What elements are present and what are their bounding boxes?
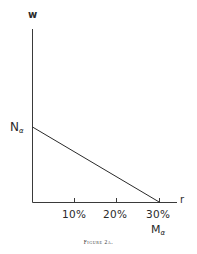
y-intercept-label: Nα [10, 121, 24, 135]
x-intercept-subscript: α [161, 229, 166, 237]
y-intercept-main: N [10, 120, 19, 134]
figure: w r Nα 10% 20% 30% Mα Figure 2a. [0, 0, 197, 254]
tick-label-10: 10% [62, 209, 86, 220]
figure-caption: Figure 2a. [0, 240, 197, 246]
tick-label-20: 20% [103, 209, 127, 220]
y-intercept-subscript: α [19, 127, 24, 135]
x-intercept-main: M [151, 223, 161, 236]
x-intercept-label: Mα [151, 224, 165, 237]
data-line [33, 127, 161, 203]
y-axis-label: w [28, 10, 37, 20]
tick-label-30: 30% [146, 209, 170, 220]
x-axis-label: r [180, 195, 184, 205]
